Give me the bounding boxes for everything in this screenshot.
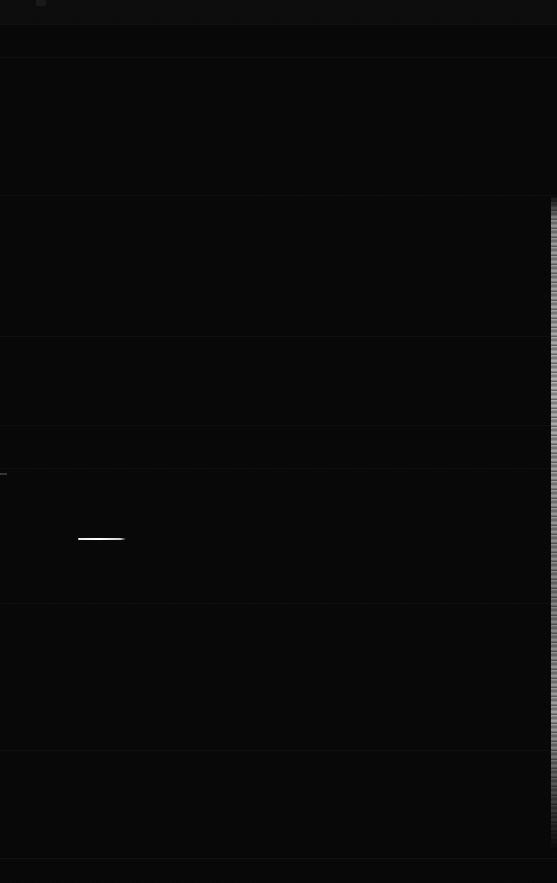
divider-subheader	[0, 57, 557, 58]
screen-capture	[0, 0, 557, 883]
top-left-indicator	[36, 0, 46, 6]
divider-header	[0, 24, 557, 25]
right-edge-light-strip	[551, 195, 557, 850]
divider-footer	[0, 858, 557, 859]
bright-horizontal-line	[78, 538, 126, 540]
divider-content	[0, 603, 557, 604]
region-mid-upper	[0, 195, 557, 336]
top-bar	[0, 0, 557, 24]
region-lower	[0, 603, 557, 750]
divider-mid-upper	[0, 336, 557, 337]
region-content	[0, 468, 557, 603]
region-mid-lower	[0, 425, 557, 468]
divider-lower	[0, 750, 557, 751]
divider-mid	[0, 425, 557, 426]
divider-upper	[0, 195, 557, 196]
region-mid	[0, 336, 557, 425]
divider-mid-lower	[0, 468, 557, 469]
region-footer-area	[0, 750, 557, 858]
region-footer	[0, 858, 557, 883]
region-header	[0, 24, 557, 57]
region-upper	[0, 57, 557, 195]
left-edge-tick	[0, 473, 7, 475]
